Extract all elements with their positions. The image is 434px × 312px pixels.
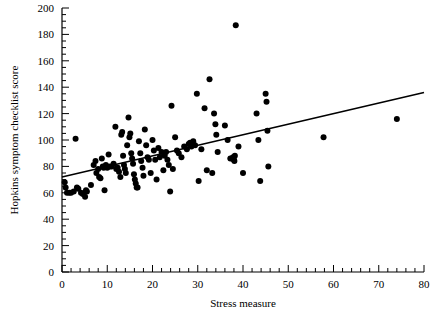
data-point xyxy=(207,76,213,82)
data-point xyxy=(212,121,218,127)
data-point xyxy=(265,163,271,169)
data-point xyxy=(198,146,204,152)
data-point xyxy=(194,91,200,97)
data-point xyxy=(116,169,122,175)
x-axis-label: Stress measure xyxy=(210,297,276,309)
data-point xyxy=(160,167,166,173)
data-point xyxy=(126,115,132,121)
data-point xyxy=(140,173,146,179)
data-point xyxy=(106,152,112,158)
data-point xyxy=(142,126,148,132)
data-point xyxy=(62,179,68,185)
data-point xyxy=(135,185,141,191)
data-point xyxy=(257,178,263,184)
x-tick-label: 60 xyxy=(328,278,340,290)
data-point xyxy=(127,130,133,136)
y-tick-label: 60 xyxy=(43,187,55,199)
data-point xyxy=(204,167,210,173)
data-point xyxy=(97,175,103,181)
data-point xyxy=(169,103,175,109)
data-point xyxy=(211,111,217,117)
y-tick-label: 200 xyxy=(38,2,55,14)
data-point xyxy=(178,154,184,160)
x-tick-label: 0 xyxy=(59,278,65,290)
data-point xyxy=(124,142,130,148)
x-tick-label: 50 xyxy=(283,278,295,290)
data-point xyxy=(131,171,137,177)
data-point xyxy=(128,150,134,156)
data-point xyxy=(222,122,228,128)
scatter-plot-figure: 020406080100120140160180200 010203040506… xyxy=(0,0,434,312)
y-tick-label: 120 xyxy=(38,108,55,120)
data-point xyxy=(123,170,129,176)
x-tick-label: 30 xyxy=(192,278,204,290)
x-tick-label: 80 xyxy=(419,278,431,290)
data-point xyxy=(143,142,149,148)
x-tick-label: 20 xyxy=(147,278,159,290)
data-point xyxy=(233,22,239,28)
data-point xyxy=(254,111,260,117)
data-point xyxy=(235,144,241,150)
plot-canvas: 020406080100120140160180200 010203040506… xyxy=(0,0,434,312)
data-point xyxy=(240,170,246,176)
data-point xyxy=(172,134,178,140)
data-point xyxy=(202,105,208,111)
data-point xyxy=(137,150,143,156)
data-point xyxy=(150,137,156,143)
data-point xyxy=(167,188,173,194)
data-point xyxy=(154,177,160,183)
y-tick-label: 180 xyxy=(38,28,55,40)
data-point xyxy=(73,136,79,142)
y-tick-label: 20 xyxy=(43,240,55,252)
x-tick-label: 70 xyxy=(373,278,385,290)
data-point xyxy=(112,124,118,130)
y-tick-label: 100 xyxy=(38,134,55,146)
data-point xyxy=(231,158,237,164)
y-tick-label: 40 xyxy=(43,213,55,225)
data-point xyxy=(102,187,108,193)
data-point xyxy=(82,194,88,200)
data-point xyxy=(255,137,261,143)
data-point xyxy=(170,166,176,172)
x-tick-label: 10 xyxy=(102,278,114,290)
data-point xyxy=(140,165,146,171)
data-point xyxy=(84,188,90,194)
y-tick-label: 0 xyxy=(49,266,55,278)
data-point xyxy=(99,155,105,161)
data-point xyxy=(394,116,400,122)
data-point xyxy=(215,149,221,155)
data-point xyxy=(88,182,94,188)
data-point xyxy=(264,99,270,105)
data-point xyxy=(232,153,238,159)
data-point xyxy=(148,170,154,176)
y-tick-label: 80 xyxy=(43,160,55,172)
y-tick-label: 160 xyxy=(38,55,55,67)
data-point xyxy=(321,134,327,140)
data-point xyxy=(196,178,202,184)
data-point xyxy=(120,153,126,159)
data-point xyxy=(63,185,69,191)
data-point xyxy=(209,170,215,176)
data-point xyxy=(164,157,170,163)
data-point xyxy=(136,138,142,144)
data-point xyxy=(117,174,123,180)
y-tick-label: 140 xyxy=(38,81,55,93)
y-axis-label: Hopkins symptom checklist score xyxy=(8,65,20,214)
data-point xyxy=(92,158,98,164)
data-point xyxy=(119,129,125,135)
data-point xyxy=(213,132,219,138)
data-point xyxy=(263,91,269,97)
x-tick-label: 40 xyxy=(238,278,250,290)
